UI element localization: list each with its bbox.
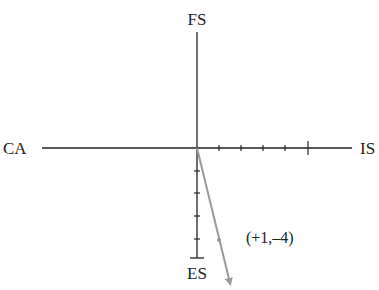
label-bottom-es: ES [187, 264, 207, 283]
vector-midpoint-dot [217, 238, 221, 242]
label-top-fs: FS [188, 10, 207, 29]
label-right-is: IS [360, 139, 375, 158]
axes-diagram: FS CA IS ES (+1,–4) [0, 0, 379, 290]
vector-label: (+1,–4) [246, 229, 294, 247]
vector-arrow [197, 148, 230, 283]
label-left-ca: CA [3, 139, 27, 158]
